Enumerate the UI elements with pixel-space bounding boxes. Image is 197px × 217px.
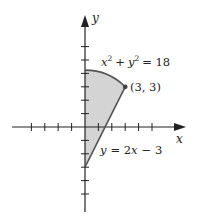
intersection-point <box>123 84 128 89</box>
circle-equation-label: x2+y2= 18 <box>101 54 170 69</box>
x-axis-label: x <box>176 132 183 146</box>
point-label: (3, 3) <box>130 80 161 94</box>
y-axis-label: y <box>91 11 99 25</box>
line-equation-label: y= 2x− 3 <box>99 143 162 157</box>
x-axis-arrow-icon <box>174 123 186 131</box>
y-axis-arrow-icon <box>81 15 89 27</box>
region-diagram: y x x2+y2= 18 (3, 3) y= 2x− 3 <box>0 0 197 217</box>
